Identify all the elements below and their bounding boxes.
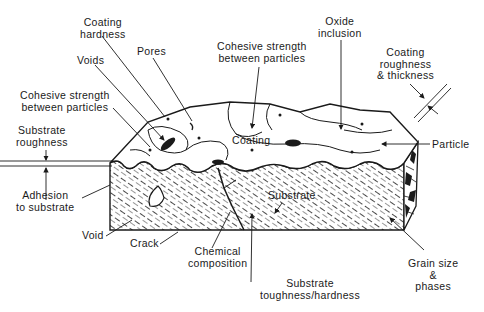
label-crack: Crack (130, 238, 159, 250)
coating-thickness-lines (410, 84, 451, 122)
label-coating: Coating (232, 135, 270, 147)
label-pores: Pores (137, 46, 166, 58)
label-oxide-inclusion: Oxide inclusion (318, 16, 362, 39)
label-substrate-toughness-hardness: Substrate toughness/hardness (260, 278, 360, 301)
substrate-block (110, 161, 404, 230)
label-cohesive-strength-top: Cohesive strength between particles (217, 41, 307, 64)
label-chemical-composition: Chemical composition (188, 246, 247, 269)
label-substrate: Substrate (268, 190, 316, 202)
label-substrate-roughness: Substrate roughness (16, 125, 68, 148)
label-adhesion-to-substrate: Adhesion to substrate (16, 190, 74, 213)
label-coating-roughness-thickness: Coating roughness & thickness (377, 47, 434, 82)
label-particle: Particle (432, 139, 469, 151)
label-void: Void (82, 230, 104, 242)
label-cohesive-strength-left: Cohesive strength between particles (20, 90, 110, 113)
label-coating-hardness: Coating hardness (80, 17, 126, 40)
label-grain-size-phases: Grain size & phases (408, 258, 458, 293)
label-voids: Voids (77, 55, 104, 67)
